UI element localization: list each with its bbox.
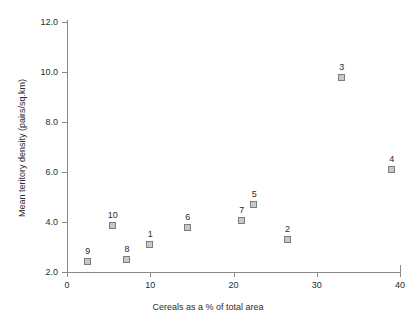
- data-point-marker: [250, 201, 257, 208]
- data-point-label: 5: [244, 190, 264, 199]
- data-point-marker: [123, 256, 130, 263]
- y-axis-tick-label: 8.0: [24, 117, 58, 127]
- x-axis-tick-label: 10: [135, 280, 165, 290]
- data-point-marker: [184, 224, 191, 231]
- data-point-label: 10: [103, 211, 123, 220]
- y-axis-tick-label: 4.0: [24, 217, 58, 227]
- data-point-label: 3: [332, 63, 352, 72]
- data-point-marker: [84, 258, 91, 265]
- x-axis-tick: [400, 272, 401, 277]
- y-axis-tick-label: 6.0: [24, 167, 58, 177]
- y-axis-tick-label: 12.0: [24, 17, 58, 27]
- data-point-marker: [109, 222, 116, 229]
- y-axis-title: Mean teritory density (pairs/sq.km): [17, 43, 27, 253]
- y-axis-tick-label: 10.0: [24, 67, 58, 77]
- x-axis-tick: [150, 272, 151, 277]
- scatter-chart-figure: 2.04.06.08.010.012.0 010203040 Cereals a…: [0, 0, 416, 323]
- x-axis-tick: [317, 272, 318, 277]
- x-axis-tick: [234, 272, 235, 277]
- x-axis-tick-label: 20: [219, 280, 249, 290]
- data-point-label: 7: [232, 206, 252, 215]
- data-point-label: 2: [278, 225, 298, 234]
- x-axis-title: Cereals as a % of total area: [0, 302, 416, 312]
- data-point-marker: [238, 217, 245, 224]
- data-point-label: 1: [140, 230, 160, 239]
- x-axis-tick-label: 30: [302, 280, 332, 290]
- y-axis-tick-label: 2.0: [24, 267, 58, 277]
- data-point-marker: [338, 74, 345, 81]
- data-point-label: 4: [382, 155, 402, 164]
- data-point-marker: [284, 236, 291, 243]
- data-point-marker: [146, 241, 153, 248]
- x-axis-tick-label: 0: [52, 280, 82, 290]
- data-point-label: 6: [178, 213, 198, 222]
- data-point-label: 9: [78, 247, 98, 256]
- data-point-marker: [388, 166, 395, 173]
- plot-area: [67, 22, 400, 272]
- data-point-label: 8: [117, 245, 137, 254]
- x-axis-tick-label: 40: [385, 280, 415, 290]
- x-axis-tick: [67, 272, 68, 277]
